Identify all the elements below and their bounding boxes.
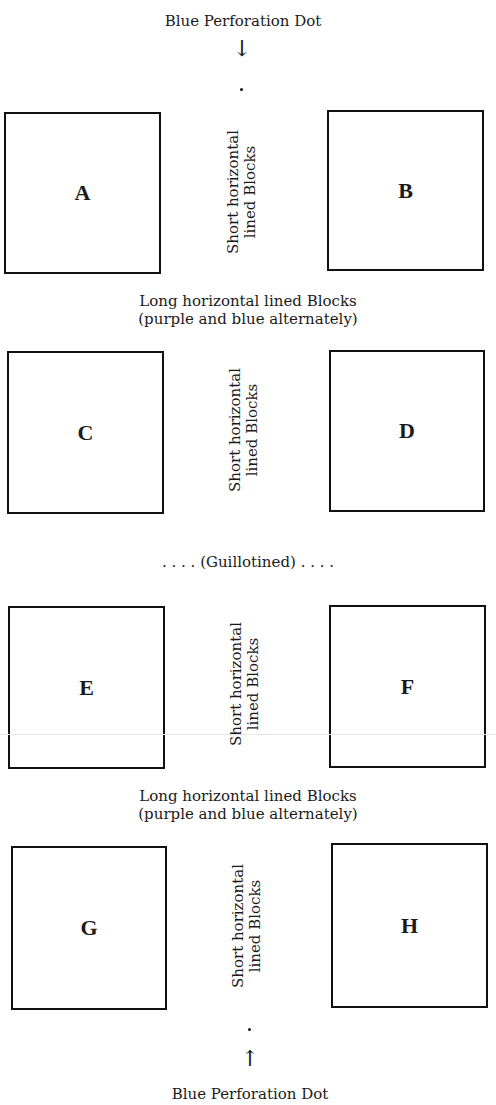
short-blocks-line1: Short horizontal	[228, 599, 245, 769]
block-b: B	[327, 110, 484, 271]
arrow-up-icon: ↑	[240, 1048, 260, 1070]
paper-crease	[0, 734, 496, 735]
short-blocks-line1: Short horizontal	[225, 107, 242, 277]
short-blocks-line2: lined Blocks	[245, 599, 262, 769]
short-blocks-label: Short horizontal lined Blocks	[228, 599, 268, 769]
block-g: G	[11, 846, 167, 1010]
block-a: A	[4, 112, 161, 274]
top-perforation-dot	[240, 88, 243, 91]
bottom-perforation-label: Blue Perforation Dot	[0, 1085, 496, 1103]
short-blocks-label: Short horizontal lined Blocks	[225, 107, 265, 277]
block-letter: A	[6, 180, 159, 206]
block-letter: C	[9, 420, 162, 446]
block-letter: E	[10, 675, 163, 701]
block-letter: G	[13, 915, 165, 941]
long-blocks-line1: Long horizontal lined Blocks	[0, 787, 496, 805]
block-h: H	[331, 843, 488, 1008]
short-blocks-line2: lined Blocks	[242, 107, 259, 277]
long-blocks-label: Long horizontal lined Blocks (purple and…	[0, 787, 496, 823]
guillotined-label: . . . . (Guillotined) . . . .	[0, 553, 496, 571]
arrow-down-icon: ↓	[232, 38, 252, 60]
block-e: E	[8, 606, 165, 769]
block-letter: F	[331, 674, 484, 700]
bottom-perforation-dot	[248, 1028, 251, 1031]
long-blocks-label: Long horizontal lined Blocks (purple and…	[0, 292, 496, 328]
short-blocks-line1: Short horizontal	[230, 841, 247, 1011]
block-f: F	[329, 605, 486, 768]
short-blocks-line2: lined Blocks	[244, 345, 261, 515]
long-blocks-line1: Long horizontal lined Blocks	[0, 292, 496, 310]
short-blocks-line2: lined Blocks	[247, 841, 264, 1011]
long-blocks-line2: (purple and blue alternately)	[0, 805, 496, 823]
short-blocks-line1: Short horizontal	[227, 345, 244, 515]
block-letter: D	[331, 418, 483, 444]
short-blocks-label: Short horizontal lined Blocks	[230, 841, 270, 1011]
block-c: C	[7, 351, 164, 514]
short-blocks-label: Short horizontal lined Blocks	[227, 345, 267, 515]
block-letter: H	[333, 913, 486, 939]
long-blocks-line2: (purple and blue alternately)	[0, 310, 496, 328]
block-letter: B	[329, 178, 482, 204]
block-d: D	[329, 350, 485, 512]
top-perforation-label: Blue Perforation Dot	[0, 12, 486, 30]
